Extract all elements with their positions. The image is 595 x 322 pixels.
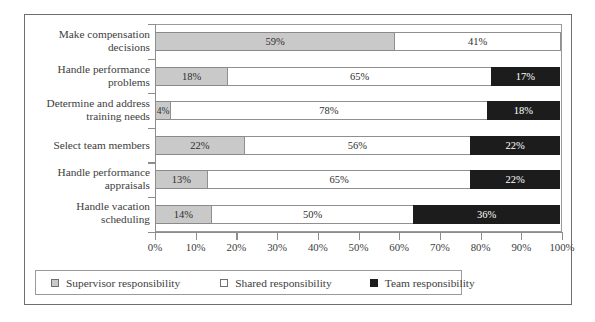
table-row: 59% 41% <box>155 32 562 51</box>
y-axis-tick <box>148 128 155 129</box>
x-axis-tick <box>155 233 156 240</box>
bar-value-label: 13% <box>172 174 191 185</box>
bar-segment-team: 22% <box>470 136 560 155</box>
y-axis-tick <box>148 24 155 25</box>
bar-value-label: 50% <box>303 209 322 220</box>
bar-segment-team: 17% <box>491 67 560 86</box>
bar-group-5: 14% 50% 36% <box>155 197 562 232</box>
y-axis-label-3-line-0: Select team members <box>14 139 150 152</box>
y-axis-label-5-line-0: Handle vacation <box>14 200 150 213</box>
bar-segment-supervisor: 14% <box>155 205 212 224</box>
bar-group-4: 13% 65% 22% <box>155 162 562 197</box>
bar-segment-team: 36% <box>413 205 560 224</box>
y-axis-tick <box>148 93 155 94</box>
legend-item-supervisor: Supervisor responsibility <box>51 277 180 289</box>
y-axis-line <box>155 24 156 233</box>
bar-value-label: 78% <box>319 105 338 116</box>
bar-segment-supervisor: 13% <box>155 170 208 189</box>
y-axis-label-2-line-1: training needs <box>14 110 150 123</box>
bar-value-label: 22% <box>506 174 525 185</box>
y-axis-label-2: Determine and address training needs <box>14 97 150 124</box>
table-row: 18% 65% 17% <box>155 67 562 86</box>
bar-value-label: 36% <box>477 209 496 220</box>
bar-segment-supervisor: 18% <box>155 67 228 86</box>
x-axis-tick-label-0: 0% <box>133 241 177 253</box>
bar-value-label: 59% <box>265 36 284 47</box>
bar-value-label: 56% <box>348 140 367 151</box>
x-axis-tick-label-7: 70% <box>418 241 462 253</box>
y-axis-tick <box>148 162 155 163</box>
x-axis-tick-label-1: 10% <box>174 241 218 253</box>
x-axis-tick-label-5: 50% <box>337 241 381 253</box>
bar-value-label: 18% <box>514 105 533 116</box>
bar-value-label: 65% <box>350 71 369 82</box>
bar-value-label: 18% <box>182 71 201 82</box>
y-axis-label-5: Handle vacation scheduling <box>14 200 150 227</box>
y-axis-tick <box>148 197 155 198</box>
y-axis-label-2-line-0: Determine and address <box>14 97 150 110</box>
x-axis-tick <box>440 233 441 240</box>
bar-segment-supervisor: 59% <box>155 32 395 51</box>
x-axis-tick <box>318 233 319 240</box>
table-row: 13% 65% 22% <box>155 170 562 189</box>
y-axis-label-0-line-1: decisions <box>14 41 150 54</box>
bar-group-1: 18% 65% 17% <box>155 59 562 94</box>
bar-value-label: 14% <box>174 209 193 220</box>
y-axis-label-4: Handle performance appraisals <box>14 166 150 193</box>
table-row: 4% 78% 18% <box>155 101 562 120</box>
x-axis-tick <box>399 233 400 240</box>
x-axis-tick <box>236 233 237 240</box>
bar-group-3: 22% 56% 22% <box>155 128 562 163</box>
x-axis-tick <box>277 233 278 240</box>
y-axis-label-3: Select team members <box>14 139 150 152</box>
legend-item-shared: Shared responsibility <box>220 277 332 289</box>
bar-segment-shared: 56% <box>244 136 472 155</box>
y-axis-label-5-line-1: scheduling <box>14 213 150 226</box>
bar-segment-shared: 65% <box>207 170 472 189</box>
bar-segment-shared: 78% <box>170 101 487 120</box>
bar-segment-team: 18% <box>487 101 560 120</box>
legend-label-shared: Shared responsibility <box>235 277 332 289</box>
bar-value-label: 4% <box>157 106 170 116</box>
legend-label-supervisor: Supervisor responsibility <box>66 277 180 289</box>
bar-value-label: 22% <box>190 140 209 151</box>
bar-value-label: 17% <box>516 71 535 82</box>
bar-segment-supervisor: 22% <box>155 136 245 155</box>
x-axis-tick-label-4: 40% <box>296 241 340 253</box>
y-axis-label-4-line-1: appraisals <box>14 179 150 192</box>
y-axis-tick <box>148 232 155 233</box>
y-axis-label-1-line-0: Handle performance <box>14 63 150 76</box>
y-axis-label-0-line-0: Make compensation <box>14 28 150 41</box>
x-axis-tick <box>196 233 197 240</box>
x-axis-tick-label-6: 60% <box>377 241 421 253</box>
y-axis-label-0: Make compensation decisions <box>14 28 150 55</box>
bar-segment-supervisor: 4% <box>155 101 171 120</box>
legend-swatch-shared-icon <box>220 279 228 287</box>
legend-swatch-team-icon <box>370 279 378 287</box>
bar-value-label: 41% <box>468 36 487 47</box>
bar-segment-shared: 41% <box>394 32 561 51</box>
bar-group-0: 59% 41% <box>155 24 562 59</box>
bar-value-label: 65% <box>330 174 349 185</box>
legend-swatch-supervisor-icon <box>51 279 59 287</box>
bar-segment-shared: 50% <box>211 205 415 224</box>
y-axis-label-4-line-0: Handle performance <box>14 166 150 179</box>
x-axis-tick-label-3: 30% <box>255 241 299 253</box>
y-axis-tick <box>148 59 155 60</box>
x-axis-tick <box>521 233 522 240</box>
x-axis-tick-label-2: 20% <box>214 241 258 253</box>
bar-segment-team: 22% <box>470 170 560 189</box>
plot-area: 59% 41% 18% 65% 17% 4% 78% 18% 22% 56% 2… <box>155 24 562 232</box>
y-axis-label-1: Handle performance problems <box>14 63 150 90</box>
y-axis-label-1-line-1: problems <box>14 76 150 89</box>
chart-figure: Make compensation decisions Handle perfo… <box>0 0 595 322</box>
x-axis-tick <box>359 233 360 240</box>
x-axis-tick <box>562 233 563 240</box>
chart-legend: Supervisor responsibility Shared respons… <box>35 270 462 295</box>
x-axis-tick <box>481 233 482 240</box>
legend-item-team: Team responsibility <box>370 277 475 289</box>
bar-group-2: 4% 78% 18% <box>155 93 562 128</box>
bar-value-label: 22% <box>506 140 525 151</box>
bar-segment-shared: 65% <box>227 67 492 86</box>
x-axis-tick-label-8: 80% <box>459 241 503 253</box>
